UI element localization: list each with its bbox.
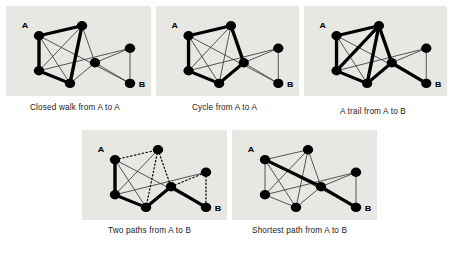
graph-figure-cycle: AB: [156, 6, 299, 96]
vertex-label-a: A: [98, 144, 105, 153]
graph-figure-trail: AB: [304, 6, 447, 96]
panel-caption-closed-walk: Closed walk from A to A: [30, 103, 120, 112]
graph-figure-closed-walk: AB: [6, 6, 151, 96]
graph-node: [226, 21, 236, 30]
graph-node-b: [125, 79, 135, 88]
vertex-label-b: B: [287, 79, 293, 89]
panel-closed-walk: AB: [6, 6, 151, 96]
graph-edge: [244, 63, 279, 84]
graph-edge: [189, 26, 231, 71]
graph-edge-highlighted: [321, 187, 356, 208]
graph-node: [77, 21, 87, 30]
graph-node-b: [421, 79, 431, 88]
graph-node: [421, 44, 431, 53]
graph-node: [260, 190, 270, 199]
panel-cycle: AB: [156, 6, 299, 96]
graph-edge: [265, 150, 308, 195]
vertex-label-b: B: [365, 203, 372, 212]
graph-edge: [95, 63, 130, 84]
graph-node-a: [183, 31, 193, 40]
panel-caption-two-paths: Two paths from A to B: [108, 226, 191, 235]
graph-node: [183, 66, 193, 75]
graph-node-a: [110, 155, 120, 164]
vertex-label-b: B: [215, 203, 222, 212]
diagram-canvas: ABClosed walk from A to AABCycle from A …: [0, 0, 453, 256]
panel-caption-cycle: Cycle from A to A: [192, 103, 257, 112]
graph-node-b: [351, 203, 361, 212]
graph-node: [303, 145, 313, 154]
graph-node: [316, 182, 326, 191]
graph-edge-highlighted: [171, 187, 206, 208]
graph-edge-highlighted: [379, 26, 392, 63]
graph-node-a: [260, 155, 270, 164]
panel-shortest-path: AB: [232, 130, 377, 220]
vertex-label-b: B: [139, 79, 146, 88]
graph-edge: [115, 150, 158, 195]
graph-node: [201, 168, 211, 177]
graph-node: [291, 203, 301, 212]
graph-node-a: [331, 31, 341, 40]
graph-node: [374, 21, 384, 30]
graph-edge-highlighted: [231, 26, 244, 63]
graph-node: [166, 182, 176, 191]
graph-node: [125, 44, 135, 53]
graph-node: [110, 190, 120, 199]
graph-node: [351, 168, 361, 177]
graph-node: [141, 203, 151, 212]
graph-node: [239, 58, 249, 67]
panel-caption-trail: A trail from A to B: [340, 107, 406, 116]
graph-edge-highlighted: [39, 26, 82, 36]
vertex-label-b: B: [435, 79, 441, 89]
graph-svg-trail: AB: [304, 6, 447, 96]
vertex-label-a: A: [248, 144, 255, 153]
panel-trail: AB: [304, 6, 447, 96]
graph-node: [331, 66, 341, 75]
vertex-label-a: A: [320, 20, 326, 30]
graph-node-b: [273, 79, 283, 88]
graph-edge-highlighted: [189, 26, 231, 36]
graph-node-b: [201, 203, 211, 212]
graph-node: [214, 79, 224, 88]
graph-node: [153, 145, 163, 154]
panel-caption-shortest-path: Shortest path from A to B: [252, 226, 347, 235]
graph-node: [90, 58, 100, 67]
graph-node: [362, 79, 372, 88]
vertex-label-a: A: [172, 20, 178, 30]
graph-node: [273, 44, 283, 53]
graph-node: [34, 66, 44, 75]
graph-svg-two-paths: AB: [82, 130, 227, 220]
graph-figure-two-paths: AB: [82, 130, 227, 220]
panel-two-paths: AB: [82, 130, 227, 220]
graph-edge-highlighted: [392, 63, 427, 84]
vertex-label-a: A: [22, 20, 29, 29]
graph-node-a: [34, 31, 44, 40]
graph-edge: [265, 150, 308, 160]
graph-svg-cycle: AB: [156, 6, 299, 96]
graph-svg-closed-walk: AB: [6, 6, 151, 96]
graph-node: [65, 79, 75, 88]
graph-node: [387, 58, 397, 67]
graph-edge-dotted: [115, 150, 158, 160]
graph-svg-shortest-path: AB: [232, 130, 377, 220]
graph-figure-shortest-path: AB: [232, 130, 377, 220]
graph-edge-dotted: [158, 150, 171, 187]
